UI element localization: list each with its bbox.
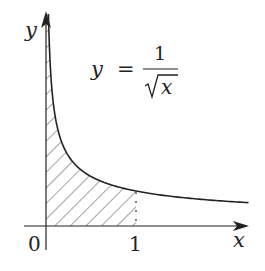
equation-equals: = [117, 57, 135, 81]
x-tick-label-1: 1 [129, 232, 142, 256]
equation-denominator-var: x [161, 75, 172, 99]
equation-numerator: 1 [154, 42, 166, 64]
function-equation: y = 1 x [90, 42, 178, 99]
origin-label: 0 [28, 232, 41, 256]
equation-lhs: y [90, 57, 104, 81]
shaded-region [46, 14, 136, 226]
x-axis-label: x [233, 228, 245, 252]
y-axis-label: y [24, 18, 38, 42]
diagram-canvas: y x 0 1 y = 1 x [0, 0, 265, 271]
